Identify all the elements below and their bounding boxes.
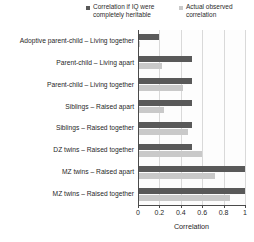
category-label: Siblings – Raised together	[0, 124, 134, 132]
y-axis-line	[138, 30, 139, 205]
bar-group	[138, 30, 245, 52]
category-label: MZ twins – Raised apart	[0, 168, 134, 176]
bar-heritable	[138, 188, 245, 194]
bar-rows	[138, 30, 245, 205]
bar-heritable	[138, 166, 245, 172]
chart-legend: Correlation if IQ were completely herita…	[86, 3, 252, 19]
bar-observed	[138, 63, 162, 69]
bar-group	[138, 74, 245, 96]
x-tick-label: 0.6	[192, 209, 212, 217]
x-axis-line	[138, 205, 246, 206]
x-tick-label: 1	[235, 209, 254, 217]
category-label: Parent-child – Living apart	[0, 59, 134, 67]
x-axis-title: Correlation	[138, 222, 245, 231]
bar-observed	[138, 107, 164, 113]
x-tick	[202, 205, 203, 208]
square-marker-icon	[86, 6, 90, 10]
x-tick-label: 0.8	[214, 209, 234, 217]
bar-observed	[138, 173, 215, 179]
bar-group	[138, 161, 245, 183]
bar-observed	[138, 195, 230, 201]
bar-heritable	[138, 34, 159, 40]
y-axis-category-labels: Adoptive parent-child – Living togetherP…	[0, 30, 134, 205]
legend-item-observed: Actual observed correlation	[179, 3, 252, 19]
bar-group	[138, 183, 245, 205]
x-tick	[181, 205, 182, 208]
gridline	[245, 30, 246, 205]
category-label: Adoptive parent-child – Living together	[0, 37, 134, 45]
x-tick-label: 0.2	[149, 209, 169, 217]
iq-correlation-bar-chart: Correlation if IQ were completely herita…	[0, 0, 254, 242]
bar-observed	[138, 151, 202, 157]
x-tick-label: 0	[128, 209, 148, 217]
x-tick	[159, 205, 160, 208]
bar-observed	[138, 129, 188, 135]
x-tick-label: 0.4	[171, 209, 191, 217]
square-marker-icon	[179, 6, 183, 10]
legend-label-observed: Actual observed correlation	[186, 3, 233, 19]
x-tick	[245, 205, 246, 208]
category-label: Parent-child – Living together	[0, 81, 134, 89]
bar-heritable	[138, 122, 192, 128]
bar-heritable	[138, 78, 192, 84]
legend-item-heritable: Correlation if IQ were completely herita…	[86, 3, 171, 19]
bar-group	[138, 52, 245, 74]
bar-heritable	[138, 144, 192, 150]
bar-group	[138, 118, 245, 140]
bar-heritable	[138, 56, 192, 62]
bar-group	[138, 139, 245, 161]
bar-group	[138, 96, 245, 118]
category-label: DZ twins – Raised together	[0, 146, 134, 154]
category-label: Siblings – Raised apart	[0, 103, 134, 111]
x-tick	[138, 205, 139, 208]
bar-observed	[138, 85, 183, 91]
bar-heritable	[138, 100, 192, 106]
category-label: MZ twins – Raised together	[0, 190, 134, 198]
x-tick	[224, 205, 225, 208]
plot-area	[138, 30, 245, 205]
legend-label-heritable: Correlation if IQ were completely herita…	[93, 3, 154, 19]
